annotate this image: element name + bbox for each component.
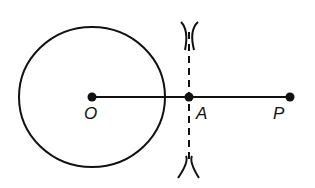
label-A: A <box>196 105 207 122</box>
point-P <box>286 93 295 102</box>
point-A <box>185 93 194 102</box>
label-P: P <box>273 105 284 122</box>
geometry-diagram <box>0 0 315 188</box>
arc-mark-bottom <box>178 156 199 178</box>
label-O: O <box>84 105 97 122</box>
point-O <box>88 93 97 102</box>
